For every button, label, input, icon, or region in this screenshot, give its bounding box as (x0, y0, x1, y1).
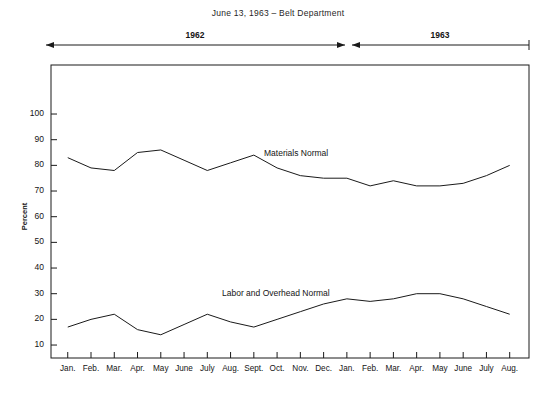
y-tick-label: 40 (18, 262, 44, 272)
y-tick-label: 60 (18, 211, 44, 221)
x-tick-label: Aug. (490, 364, 530, 373)
y-tick-label: 10 (18, 339, 44, 349)
y-tick-label: 100 (18, 108, 44, 118)
series-lines (68, 150, 510, 335)
line-labor (68, 294, 510, 335)
y-axis-ticks (51, 114, 57, 345)
plot-frame (51, 65, 529, 358)
y-tick-label: 20 (18, 313, 44, 323)
y-tick-label: 50 (18, 236, 44, 246)
y-tick-label: 30 (18, 288, 44, 298)
y-tick-label: 80 (18, 159, 44, 169)
y-tick-label: 90 (18, 134, 44, 144)
year-span-arrows (46, 40, 529, 50)
y-tick-label: 70 (18, 185, 44, 195)
x-axis-ticks (68, 352, 510, 358)
line-materials (68, 150, 510, 186)
chart-canvas (0, 0, 556, 408)
chart-figure: June 13, 1963 – Belt Department 1962 196… (0, 0, 556, 408)
